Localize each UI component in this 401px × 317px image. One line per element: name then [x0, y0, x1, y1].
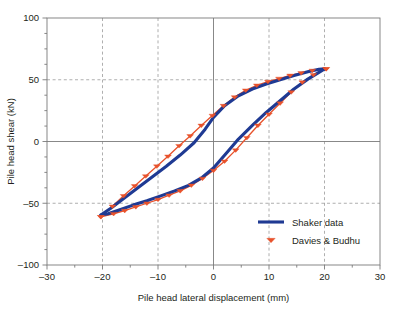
- xtick-label-0: –30: [39, 271, 55, 282]
- y-axis-title: Pile head shear (kN): [5, 98, 16, 185]
- chart-canvas: –30–20–100102030100500–50–100Pile head l…: [0, 0, 401, 317]
- xtick-label-1: –20: [95, 271, 111, 282]
- hysteresis-chart-figure: –30–20–100102030100500–50–100Pile head l…: [0, 0, 401, 317]
- xtick-label-5: 20: [319, 271, 330, 282]
- ytick-label-1: 50: [28, 74, 39, 85]
- xtick-label-6: 30: [375, 271, 386, 282]
- ytick-label-2: 0: [34, 136, 39, 147]
- chart-background: [0, 0, 401, 317]
- legend-label-shaker-data: Shaker data: [292, 217, 344, 228]
- xtick-label-3: 0: [211, 271, 216, 282]
- ytick-label-4: –100: [18, 259, 39, 270]
- x-axis-title: Pile head lateral displacement (mm): [138, 292, 290, 303]
- xtick-label-4: 10: [264, 271, 275, 282]
- legend-label-davies-budhu: Davies & Budhu: [292, 235, 360, 246]
- ytick-label-3: –50: [23, 198, 39, 209]
- xtick-label-2: –10: [150, 271, 166, 282]
- ytick-label-0: 100: [23, 12, 39, 23]
